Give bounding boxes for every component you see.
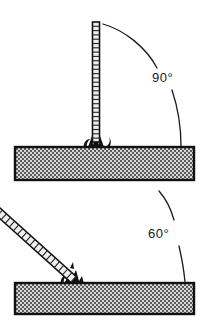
angle-label-bottom: 60° (148, 226, 169, 241)
leader-arc-upper-bottom (159, 191, 174, 220)
electrode-vertical (93, 22, 100, 142)
inclined-electrode-panel: 60° (0, 191, 194, 314)
workpiece-plate-bottom (15, 283, 194, 314)
leader-arc-lower-top (172, 90, 181, 146)
welding-angle-figure: 90° (0, 0, 209, 320)
electrode-inclined (0, 195, 77, 283)
leader-arc-lower-bottom (179, 246, 185, 282)
vertical-electrode-panel: 90° (15, 22, 194, 180)
leader-arc-upper-top (103, 24, 157, 68)
workpiece-plate-top (15, 147, 194, 180)
angle-label-top: 90° (152, 70, 173, 85)
diagram-canvas: 90° (0, 0, 209, 320)
